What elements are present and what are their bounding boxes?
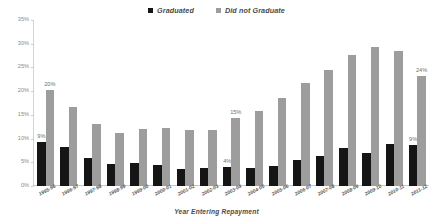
y-axis-tick-label: 10% [3, 136, 29, 142]
bar-graduated[interactable] [177, 169, 186, 186]
bar-did-not-graduate[interactable] [139, 129, 148, 186]
x-axis-label-cell: 1999-00 [127, 187, 150, 209]
bar-did-not-graduate[interactable] [162, 128, 171, 186]
bar-value-label: 4% [223, 159, 231, 165]
bar-graduated[interactable] [60, 147, 69, 186]
bar-group [173, 20, 196, 186]
x-axis-label-cell: 2002-03 [197, 187, 220, 209]
bar-group: 9%20% [34, 20, 57, 186]
bar-graduated[interactable]: 9% [37, 142, 46, 186]
chart-legend: GraduatedDid not Graduate [0, 6, 433, 15]
bar-group [313, 20, 336, 186]
legend-label: Did not Graduate [225, 6, 285, 15]
y-axis-tick-label: 35% [3, 17, 29, 23]
bar-did-not-graduate[interactable] [208, 130, 217, 186]
bar-did-not-graduate[interactable] [69, 107, 78, 186]
bar-graduated[interactable] [293, 160, 302, 186]
x-axis-label-cell: 2008-09 [337, 187, 360, 209]
bar-did-not-graduate[interactable]: 20% [46, 90, 55, 186]
bar-group [383, 20, 406, 186]
bar-group [359, 20, 382, 186]
bar-did-not-graduate[interactable] [278, 98, 287, 186]
y-axis-tick-label: 20% [3, 88, 29, 94]
bar-graduated[interactable] [246, 168, 255, 186]
bar-did-not-graduate[interactable]: 15% [231, 118, 240, 186]
x-axis-title: Year Entering Repayment [0, 208, 433, 215]
bar-graduated[interactable] [269, 166, 278, 186]
legend-label: Graduated [157, 6, 194, 15]
bar-value-label: 20% [44, 82, 55, 88]
legend-item-1[interactable]: Did not Graduate [216, 6, 285, 15]
bar-graduated[interactable] [339, 148, 348, 186]
bar-graduated[interactable] [200, 168, 209, 186]
x-axis-label-cell: 2011-12 [407, 187, 430, 209]
x-axis-label-cell: 1995-96 [34, 187, 57, 209]
y-axis-tick-label: 30% [3, 41, 29, 47]
x-axis-label-cell: 2006-07 [290, 187, 313, 209]
y-axis-tick-label: 25% [3, 64, 29, 70]
bar-graduated[interactable] [153, 165, 162, 186]
bar-did-not-graduate[interactable] [92, 124, 101, 186]
bar-group [197, 20, 220, 186]
bar-group [80, 20, 103, 186]
bar-did-not-graduate[interactable] [185, 130, 194, 186]
y-axis-tick-label: 0% [3, 183, 29, 189]
plot-area: 0%5%10%15%20%25%30%35% 9%20%4%15%9%24% [33, 20, 429, 186]
bar-graduated[interactable] [362, 153, 371, 186]
bar-did-not-graduate[interactable] [324, 70, 333, 186]
bar-value-label: 24% [416, 68, 427, 74]
x-axis-label-cell: 2010-11 [383, 187, 406, 209]
bar-group [290, 20, 313, 186]
bar-group [57, 20, 80, 186]
legend-swatch-icon [216, 8, 221, 13]
x-axis-label-cell: 2003-04 [220, 187, 243, 209]
bar-did-not-graduate[interactable]: 24% [417, 76, 426, 186]
legend-item-0[interactable]: Graduated [148, 6, 194, 15]
x-axis-label-cell: 2001-02 [174, 187, 197, 209]
bar-did-not-graduate[interactable] [348, 55, 357, 186]
bar-value-label: 15% [230, 110, 241, 116]
bar-did-not-graduate[interactable] [301, 83, 310, 186]
bar-group [336, 20, 359, 186]
bar-group [150, 20, 173, 186]
bar-group [243, 20, 266, 186]
bar-did-not-graduate[interactable] [394, 51, 403, 186]
x-axis-label-cell: 2007-08 [314, 187, 337, 209]
bar-graduated[interactable] [386, 144, 395, 186]
bar-graduated[interactable] [107, 164, 116, 186]
x-axis-label-cell: 2000-01 [150, 187, 173, 209]
bar-group [104, 20, 127, 186]
x-axis-label-cell: 2005-06 [267, 187, 290, 209]
bar-chart: GraduatedDid not Graduate 0%5%10%15%20%2… [0, 0, 433, 223]
bar-value-label: 9% [409, 137, 417, 143]
x-axis-label-cell: 1996-97 [57, 187, 80, 209]
y-axis-tick-label: 15% [3, 112, 29, 118]
x-axis-label-cell: 1997-98 [81, 187, 104, 209]
bar-group: 9%24% [406, 20, 429, 186]
bar-groups: 9%20%4%15%9%24% [34, 20, 429, 186]
x-axis-labels: 1995-961996-971997-981998-991999-002000-… [34, 187, 430, 209]
bar-group [127, 20, 150, 186]
y-axis-tick-label: 5% [3, 159, 29, 165]
bar-group: 4%15% [220, 20, 243, 186]
bar-did-not-graduate[interactable] [115, 133, 124, 186]
legend-swatch-icon [148, 8, 153, 13]
x-axis-label-cell: 2004-05 [244, 187, 267, 209]
bar-graduated[interactable]: 4% [223, 167, 232, 186]
x-axis-label-cell: 1998-99 [104, 187, 127, 209]
bar-graduated[interactable] [130, 163, 139, 186]
bar-did-not-graduate[interactable] [371, 47, 380, 186]
bar-group [266, 20, 289, 186]
bar-value-label: 9% [37, 134, 45, 140]
bar-graduated[interactable]: 9% [409, 145, 418, 186]
bar-graduated[interactable] [84, 158, 93, 186]
bar-did-not-graduate[interactable] [255, 111, 264, 186]
x-axis-label-cell: 2009-10 [360, 187, 383, 209]
bar-graduated[interactable] [316, 156, 325, 186]
